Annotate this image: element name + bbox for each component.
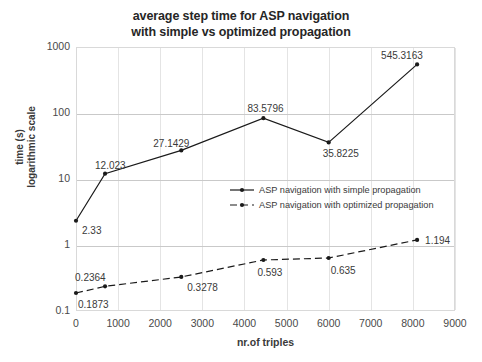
y-axis-tick-label: 1000 xyxy=(24,40,70,52)
gridline-vertical xyxy=(413,48,414,310)
legend-line-marker-icon xyxy=(229,200,255,210)
data-point-label: 27.1429 xyxy=(153,138,189,149)
data-point-label: 0.3278 xyxy=(187,282,218,293)
gridline-horizontal xyxy=(77,180,454,181)
gridline-vertical xyxy=(118,48,119,310)
data-point-label: 0.593 xyxy=(257,267,282,278)
legend-item[interactable]: ASP navigation with simple propagation xyxy=(229,182,434,197)
data-point-label: 12.023 xyxy=(95,160,126,171)
y-axis-tick-label: 0.1 xyxy=(24,304,70,316)
gridline-vertical xyxy=(244,48,245,310)
chart-container: average step time for ASP navigation wit… xyxy=(0,0,482,362)
y-axis-tick-label: 100 xyxy=(24,106,70,118)
data-point-label: 83.5796 xyxy=(247,103,283,114)
y-axis-title: time (s) logarithmic scale xyxy=(14,77,38,217)
legend-item-label: ASP navigation with simple propagation xyxy=(259,185,421,195)
data-point-label: 0.1873 xyxy=(78,299,109,310)
gridline-horizontal xyxy=(77,114,454,115)
chart-title-line-1: average step time for ASP navigation xyxy=(0,8,482,24)
gridline-vertical xyxy=(287,48,288,310)
data-point-label: 2.33 xyxy=(82,225,101,236)
data-point-label: 545.3163 xyxy=(381,50,423,61)
y-axis-tick-label: 10 xyxy=(24,172,70,184)
chart-legend: ASP navigation with simple propagationAS… xyxy=(229,182,434,212)
x-axis-title: nr.of triples xyxy=(76,336,455,348)
gridline-horizontal xyxy=(77,246,454,247)
gridline-vertical xyxy=(455,48,456,310)
legend-item[interactable]: ASP navigation with optimized propagatio… xyxy=(229,197,434,212)
data-point-label: 0.2364 xyxy=(75,272,106,283)
gridline-vertical xyxy=(160,48,161,310)
gridline-vertical xyxy=(202,48,203,310)
gridline-vertical xyxy=(329,48,330,310)
y-axis-title-line-1: time (s) xyxy=(14,77,26,217)
gridline-vertical xyxy=(371,48,372,310)
chart-title-line-2: with simple vs optimized propagation xyxy=(0,24,482,40)
data-point-label: 0.635 xyxy=(331,265,356,276)
legend-item-label: ASP navigation with optimized propagatio… xyxy=(259,200,434,210)
y-axis-title-line-2: logarithmic scale xyxy=(26,77,38,217)
legend-line-marker-icon xyxy=(229,185,255,195)
y-axis-tick-label: 1 xyxy=(24,238,70,250)
chart-title: average step time for ASP navigation wit… xyxy=(0,8,482,40)
data-point-label: 35.8225 xyxy=(323,148,359,159)
x-axis-tick-label: 9000 xyxy=(425,317,482,329)
data-point-label: 1.194 xyxy=(425,235,450,246)
